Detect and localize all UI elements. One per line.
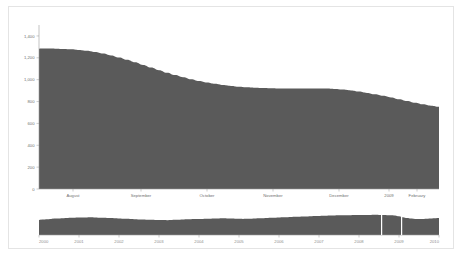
- y-axis-tick-label: 1,400: [24, 34, 35, 39]
- x-axis: AugustSeptemberOctoberNovemberDecember20…: [39, 189, 439, 198]
- navigator-year-label: 2000: [39, 239, 49, 244]
- navigator-year-label: 2001: [74, 239, 84, 244]
- navigator-year-label: 2010: [430, 239, 440, 244]
- navigator-year-label: 2003: [154, 239, 164, 244]
- x-axis-tick-label: September: [131, 193, 152, 198]
- chart-card: 02004006008001,0001,2001,400 AugustSepte…: [8, 6, 454, 249]
- x-axis-tick-label: October: [200, 193, 216, 198]
- y-axis-tick-label: 1,200: [24, 55, 35, 60]
- y-axis-tick-label: 600: [28, 121, 36, 126]
- navigator-year-label: 2006: [274, 239, 284, 244]
- y-axis-tick-label: 800: [28, 99, 36, 104]
- navigator-year-label: 2007: [314, 239, 324, 244]
- y-axis-tick-label: 1,000: [24, 77, 35, 82]
- x-axis-tick-label: 2009: [384, 193, 394, 198]
- y-axis-ticks: 02004006008001,0001,2001,400: [24, 34, 39, 192]
- x-axis-tick-label: August: [66, 193, 80, 198]
- navigator-year-label: 2008: [354, 239, 364, 244]
- y-axis-tick-label: 200: [28, 165, 36, 170]
- navigator-year-label: 2009: [394, 239, 404, 244]
- navigator-year-label: 2005: [234, 239, 244, 244]
- navigator-axis-ticks: [39, 235, 439, 238]
- main-plot-area[interactable]: [39, 49, 439, 189]
- x-axis-tick-label: February: [409, 193, 427, 198]
- navigator-handle-right[interactable]: [401, 212, 402, 235]
- navigator-year-label: 2004: [194, 239, 204, 244]
- x-axis-tick-label: November: [263, 193, 283, 198]
- navigator-year-labels: 2000200120022003200420052006200720082009…: [39, 239, 440, 244]
- y-axis: 02004006008001,0001,2001,400: [24, 25, 39, 192]
- navigator[interactable]: 2000200120022003200420052006200720082009…: [39, 212, 440, 244]
- navigator-area-series[interactable]: [39, 215, 439, 235]
- y-axis-tick-label: 400: [28, 143, 36, 148]
- area-series-main[interactable]: [39, 49, 439, 189]
- stock-area-chart[interactable]: 02004006008001,0001,2001,400 AugustSepte…: [9, 7, 453, 248]
- y-axis-tick-label: 0: [32, 187, 35, 192]
- navigator-handle-left[interactable]: [381, 212, 382, 235]
- navigator-year-label: 2002: [114, 239, 124, 244]
- x-axis-ticks: AugustSeptemberOctoberNovemberDecember20…: [66, 189, 426, 198]
- x-axis-tick-label: December: [329, 193, 349, 198]
